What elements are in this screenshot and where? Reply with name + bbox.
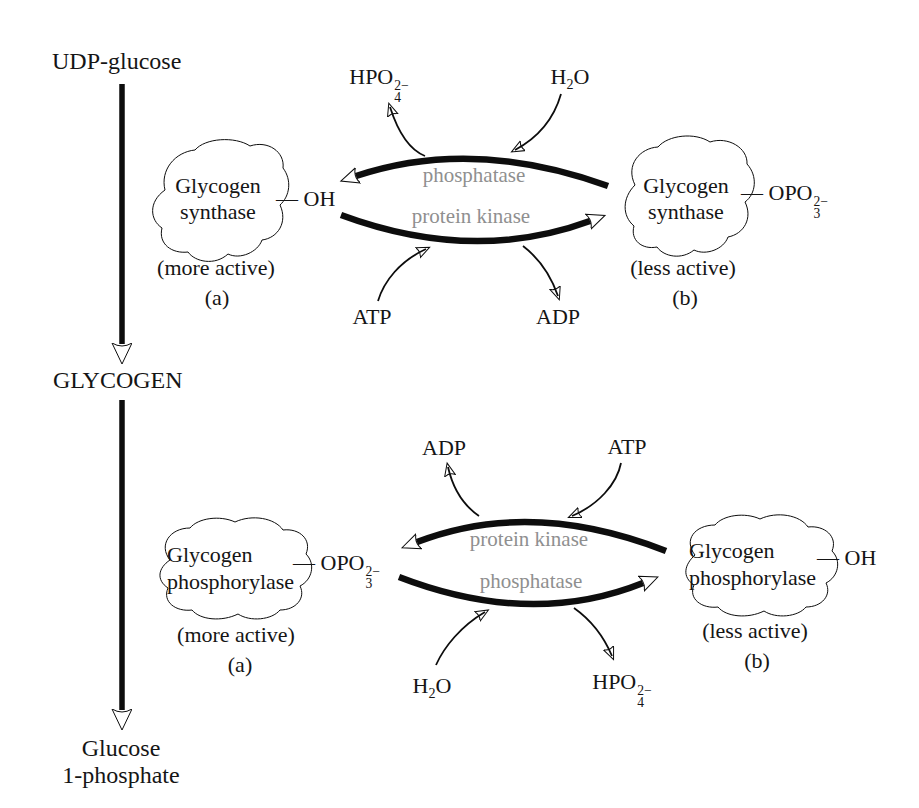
synthase-a-state: (more active) [157, 255, 275, 281]
synthase-b-phosphate-attachment: — OPO2−3 [741, 180, 828, 221]
bottom-atp-entering-arrow [572, 463, 621, 516]
glycogen-label: GLYCOGEN [53, 367, 183, 394]
synthase-b-tag: (b) [672, 285, 698, 311]
udp-glucose-label: UDP-glucose [52, 48, 181, 75]
synthase-b-state: (less active) [630, 255, 736, 281]
bottom-protein-kinase-label: protein kinase [470, 527, 588, 552]
glycogen-regulation-diagram: UDP-glucose GLYCOGEN Glucose 1-phosphate… [0, 0, 919, 808]
top-adp-leaving-arrow [523, 246, 558, 296]
synthase-a-oh-attachment: — OH [276, 186, 335, 212]
phosphorylase-a-phosphate-attachment: — OPO2−3 [293, 550, 380, 591]
phosphorylase-a-state: (more active) [177, 622, 295, 648]
top-atp-label: ATP [352, 304, 391, 330]
top-h2o-entering-arrow [515, 94, 561, 150]
synthase-a-tag: (a) [205, 285, 229, 311]
phosphorylase-b-tag: (b) [744, 648, 770, 674]
phosphorylase-b-state: (less active) [702, 618, 808, 644]
glycogen-synthase-b-name: Glycogen synthase [643, 173, 729, 225]
bottom-adp-label: ADP [422, 435, 466, 461]
glycogen-phosphorylase-b-name: Glycogen phosphorylase [689, 537, 816, 591]
top-protein-kinase-label: protein kinase [412, 204, 530, 229]
bottom-water-label: H2O [413, 673, 452, 702]
bottom-atp-label: ATP [607, 434, 646, 460]
top-atp-entering-arrow [378, 249, 426, 301]
glycogen-synthase-a-name: Glycogen synthase [175, 173, 261, 225]
phosphorylase-a-tag: (a) [228, 652, 252, 678]
top-phosphatase-label: phosphatase [423, 163, 526, 188]
top-water-label: H2O [551, 64, 590, 93]
glycogen-phosphorylase-a-name: Glycogen phosphorylase [167, 541, 294, 595]
top-phosphate-label: HPO2−4 [349, 64, 409, 105]
bottom-h2o-entering-arrow [436, 612, 485, 665]
bottom-phosphatase-label: phosphatase [480, 569, 583, 594]
bottom-hpo4-leaving-arrow [574, 608, 612, 656]
top-hpo4-leaving-arrow [390, 107, 425, 156]
bottom-adp-leaving-arrow [448, 467, 479, 516]
glucose-1-phosphate-label: Glucose 1-phosphate [62, 735, 179, 789]
bottom-phosphate-label: HPO2−4 [592, 669, 652, 710]
phosphorylase-b-oh-attachment: — OH [817, 545, 876, 571]
diagram-graphics [0, 0, 919, 808]
top-adp-label: ADP [536, 304, 580, 330]
